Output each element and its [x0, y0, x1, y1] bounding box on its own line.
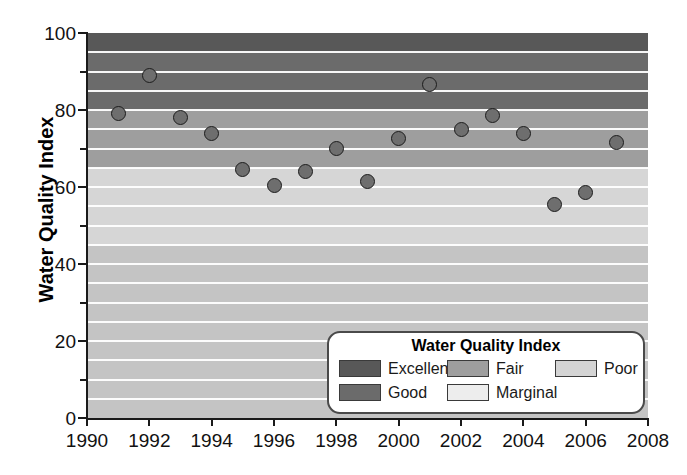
gridline [87, 167, 648, 169]
legend-item-excellent: Excellent [339, 360, 453, 377]
data-point [142, 68, 157, 83]
y-tick-label: 60 [30, 178, 76, 197]
y-tick-major [78, 263, 86, 265]
band-fair [87, 110, 648, 168]
y-tick-label: 40 [30, 255, 76, 274]
x-axis-line [86, 418, 649, 420]
legend-item-fair: Fair [447, 360, 524, 377]
y-tick-major [78, 32, 86, 34]
x-tick-major [148, 418, 150, 426]
y-tick-minor [80, 225, 86, 227]
gridline [87, 302, 648, 304]
legend-swatch-excellent [339, 360, 381, 377]
x-tick-label: 1998 [301, 430, 371, 452]
y-axis-line [86, 32, 88, 420]
legend-label: Poor [604, 361, 638, 377]
data-point [204, 126, 219, 141]
gridline [87, 225, 648, 227]
y-tick-label: 20 [30, 332, 76, 351]
y-tick-minor [80, 71, 86, 73]
legend-swatch-good [339, 384, 381, 401]
y-tick-minor [80, 379, 86, 381]
x-tick-label: 2002 [426, 430, 496, 452]
y-tick-major [78, 186, 86, 188]
y-tick-major [78, 340, 86, 342]
x-tick-major [398, 418, 400, 426]
gridline [87, 205, 648, 207]
gridline [87, 71, 648, 73]
gridline [87, 109, 648, 111]
legend-swatch-poor [555, 360, 597, 377]
gridline [87, 282, 648, 284]
x-tick-label: 2000 [364, 430, 434, 452]
water-quality-index-chart: Water Quality Index 020406080100 1990199… [0, 0, 687, 475]
gridline [87, 263, 648, 265]
x-tick-major [460, 418, 462, 426]
x-tick-major [522, 418, 524, 426]
x-tick-major [211, 418, 213, 426]
data-point [111, 106, 126, 121]
gridline [87, 90, 648, 92]
data-point [454, 122, 469, 137]
legend-swatch-fair [447, 360, 489, 377]
y-tick-major [78, 109, 86, 111]
y-tick-minor [80, 148, 86, 150]
x-tick-label: 2006 [551, 430, 621, 452]
legend-item-good: Good [339, 384, 427, 401]
y-tick-label: 0 [30, 409, 76, 428]
gridline [87, 128, 648, 130]
y-tick-label: 80 [30, 101, 76, 120]
x-tick-label: 1996 [239, 430, 309, 452]
legend-title: Water Quality Index [329, 337, 643, 355]
legend-item-marginal: Marginal [447, 384, 557, 401]
legend-label: Excellent [388, 361, 453, 377]
gridline [87, 321, 648, 323]
x-tick-major [647, 418, 649, 426]
x-tick-major [86, 418, 88, 426]
gridline [87, 148, 648, 150]
gridline [87, 244, 648, 246]
legend-box: Water Quality Index ExcellentGoodFairMar… [327, 331, 645, 414]
legend-swatch-marginal [447, 384, 489, 401]
gridline [87, 51, 648, 53]
legend-item-poor: Poor [555, 360, 638, 377]
band-excellent [87, 33, 648, 52]
x-tick-label: 2008 [613, 430, 683, 452]
data-point [516, 126, 531, 141]
legend-label: Marginal [496, 385, 557, 401]
x-tick-label: 2004 [488, 430, 558, 452]
band-good [87, 52, 648, 110]
y-tick-label: 100 [30, 24, 76, 43]
x-tick-label: 1990 [52, 430, 122, 452]
data-point [298, 164, 313, 179]
y-tick-major [78, 417, 86, 419]
data-point [547, 197, 562, 212]
x-tick-major [273, 418, 275, 426]
y-tick-minor [80, 302, 86, 304]
data-point [267, 178, 282, 193]
x-tick-label: 1994 [177, 430, 247, 452]
legend-label: Fair [496, 361, 524, 377]
data-point [329, 141, 344, 156]
x-tick-major [335, 418, 337, 426]
x-tick-label: 1992 [114, 430, 184, 452]
data-point [485, 108, 500, 123]
data-point [360, 174, 375, 189]
legend-label: Good [388, 385, 427, 401]
y-axis-tick-labels: 020406080100 [16, 0, 76, 475]
x-tick-major [585, 418, 587, 426]
